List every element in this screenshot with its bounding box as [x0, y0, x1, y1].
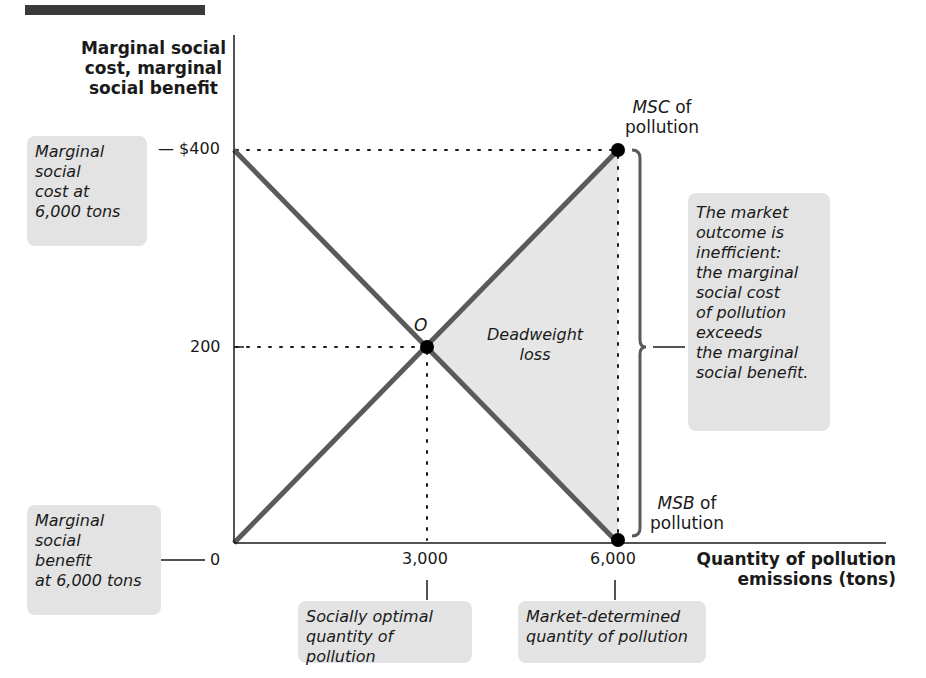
x-tick-6000: 6,000	[590, 550, 636, 568]
deadweight-loss-label: Deadweight loss	[487, 325, 583, 365]
bracket	[632, 150, 646, 536]
y-tick-200: 200	[190, 338, 221, 356]
y-axis-title-line: social benefit	[81, 78, 226, 98]
note-line: of pollution	[696, 303, 822, 323]
x-axis-title-line: emissions (tons)	[696, 569, 896, 589]
note-line: inefficient:	[696, 243, 822, 263]
msb-line2: pollution	[650, 513, 724, 533]
note-inefficient: The market outcome is inefficient: the m…	[688, 193, 830, 431]
point-o-label: O	[414, 315, 427, 335]
note-line: exceeds	[696, 323, 822, 343]
y-tick-0: 0	[210, 551, 220, 569]
note-line: 6,000 tons	[35, 202, 139, 222]
note-line: quantity of pollution	[306, 627, 464, 667]
note-line: social	[35, 531, 153, 551]
y-axis-title: Marginal social cost, marginal social be…	[81, 38, 226, 98]
note-line: social benefit.	[696, 363, 822, 383]
note-line: the marginal	[696, 263, 822, 283]
y-axis-title-line: cost, marginal	[81, 58, 226, 78]
y-axis-title-line: Marginal social	[81, 38, 226, 58]
dwl-line1: Deadweight	[487, 325, 583, 345]
note-msb-6000: Marginal social benefit at 6,000 tons	[27, 505, 161, 615]
note-line: at 6,000 tons	[35, 571, 153, 591]
msc-abbr: MSC	[632, 97, 669, 117]
point-msb-6000	[611, 533, 625, 547]
note-line: social cost	[696, 283, 822, 303]
msb-abbr: MSB	[658, 493, 695, 513]
note-line: quantity of pollution	[526, 627, 698, 647]
note-line: Marginal	[35, 142, 139, 162]
msb-rest: of	[695, 493, 717, 513]
note-line: Market-determined	[526, 607, 698, 627]
msc-rest: of	[670, 97, 692, 117]
msc-line2: pollution	[625, 117, 699, 137]
note-msc-6000: Marginal social cost at 6,000 tons	[27, 136, 147, 246]
x-tick-3000: 3,000	[402, 550, 448, 568]
note-optimal: Socially optimal quantity of pollution	[298, 601, 472, 663]
note-line: cost at	[35, 182, 139, 202]
note-line: outcome is	[696, 223, 822, 243]
note-line: benefit	[35, 551, 153, 571]
note-line: Socially optimal	[306, 607, 464, 627]
y-tick-400: — $400	[158, 140, 220, 158]
x-axis-title: Quantity of pollution emissions (tons)	[696, 549, 896, 589]
x-axis-title-line: Quantity of pollution	[696, 549, 896, 569]
dwl-line2: loss	[487, 345, 583, 365]
note-line: The market	[696, 203, 822, 223]
note-market: Market-determined quantity of pollution	[518, 601, 706, 663]
note-line: Marginal	[35, 511, 153, 531]
msc-label: MSC of pollution	[625, 97, 699, 137]
msb-label: MSB of pollution	[650, 493, 724, 533]
note-line: the marginal	[696, 343, 822, 363]
point-o	[420, 340, 434, 354]
point-msc-6000	[611, 143, 625, 157]
note-line: social	[35, 162, 139, 182]
